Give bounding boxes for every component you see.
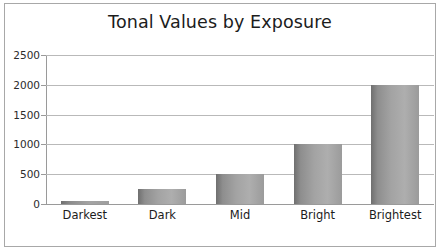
y-axis-tick-labels: 05001000150020002500 bbox=[0, 55, 40, 205]
y-axis-tick-label: 1000 bbox=[0, 138, 40, 150]
y-axis-tick-label: 1500 bbox=[0, 109, 40, 121]
y-axis-tick-mark bbox=[41, 144, 46, 145]
y-axis-tick-mark bbox=[41, 204, 46, 205]
bar-darkest bbox=[61, 201, 109, 204]
y-axis-tick-mark bbox=[41, 115, 46, 116]
y-axis-tick-mark bbox=[41, 55, 46, 56]
y-axis-tick-label: 500 bbox=[0, 168, 40, 180]
x-axis-tick-label: Brightest bbox=[356, 208, 434, 222]
gridline bbox=[46, 204, 434, 205]
plot-area bbox=[46, 55, 434, 204]
chart-title: Tonal Values by Exposure bbox=[0, 12, 440, 32]
x-axis-tick-label: Mid bbox=[201, 208, 279, 222]
bar-brightest bbox=[371, 85, 419, 204]
bar-bright bbox=[294, 144, 342, 204]
bar-dark bbox=[138, 189, 186, 204]
y-axis-tick-mark bbox=[41, 174, 46, 175]
y-axis-tick-label: 2500 bbox=[0, 49, 40, 61]
bar-mid bbox=[216, 174, 264, 204]
x-axis-tick-label: Darkest bbox=[46, 208, 124, 222]
x-axis-tick-label: Dark bbox=[124, 208, 202, 222]
gridline bbox=[46, 55, 434, 56]
y-axis-tick-mark bbox=[41, 85, 46, 86]
y-axis-tick-label: 2000 bbox=[0, 79, 40, 91]
x-axis-tick-label: Bright bbox=[279, 208, 357, 222]
y-axis-tick-label: 0 bbox=[0, 198, 40, 210]
bar-chart-figure: Tonal Values by Exposure 050010001500200… bbox=[0, 0, 440, 251]
